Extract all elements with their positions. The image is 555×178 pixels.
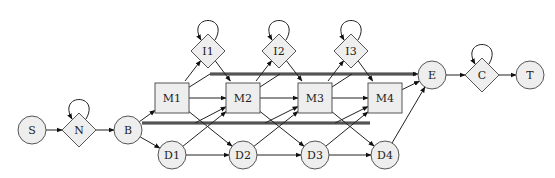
edge-M2-I2 <box>256 61 272 81</box>
edge-I2-M3 <box>286 61 302 81</box>
node-label: M2 <box>234 92 252 105</box>
edge-M3-D4 <box>332 112 374 146</box>
node-label: N <box>74 124 84 137</box>
node-M2: M2 <box>226 83 260 113</box>
node-label: M1 <box>163 92 181 105</box>
edge-D2-M3 <box>254 111 298 146</box>
node-label: M4 <box>376 92 394 105</box>
edge-I1-M2 <box>215 61 230 81</box>
node-N: N <box>62 100 96 148</box>
node-M1: M1 <box>155 83 189 113</box>
edge-M2-E <box>260 74 280 87</box>
node-S: S <box>18 116 46 144</box>
node-D2: D2 <box>229 141 257 169</box>
edge-M3-I3 <box>328 61 344 81</box>
node-M3: M3 <box>298 83 332 113</box>
node-B: B <box>114 116 142 144</box>
node-label: E <box>428 69 436 82</box>
edge-I3-M4 <box>358 61 373 81</box>
node-label: T <box>526 69 534 82</box>
node-I2: I2 <box>262 21 296 69</box>
node-T: T <box>516 61 544 89</box>
node-C: C <box>465 45 499 93</box>
nodes: SNBM1M2M3M4I1I2I3D1D2D3D4ECT <box>18 21 544 170</box>
edge-M1-E <box>189 74 210 87</box>
edge-M4-E <box>402 81 419 90</box>
node-label: D1 <box>164 149 180 162</box>
node-E: E <box>418 61 446 89</box>
node-D1: D1 <box>158 141 186 169</box>
edge-B-D1 <box>140 137 160 148</box>
edge-M2-D3 <box>260 111 304 146</box>
node-label: I3 <box>345 45 356 58</box>
edge-D1-M2 <box>183 112 226 147</box>
node-I3: I3 <box>334 21 368 69</box>
node-D4: D4 <box>371 141 399 169</box>
node-label: I1 <box>202 45 213 58</box>
edge-B-M4 <box>335 107 368 124</box>
node-label: C <box>478 69 486 82</box>
node-label: S <box>28 124 36 137</box>
edge-M1-D2 <box>189 112 232 147</box>
node-label: B <box>124 124 132 137</box>
edge-B-M1 <box>139 110 155 121</box>
node-M4: M4 <box>368 83 402 113</box>
node-D3: D3 <box>301 141 329 169</box>
node-label: D4 <box>377 149 393 162</box>
hmm-state-diagram: SNBM1M2M3M4I1I2I3D1D2D3D4ECT <box>0 0 555 178</box>
node-label: D2 <box>235 149 251 162</box>
node-label: D3 <box>307 149 323 162</box>
edge-M1-I1 <box>185 61 201 81</box>
node-label: I2 <box>273 45 284 58</box>
edge-M3-E <box>332 74 352 87</box>
node-label: M3 <box>306 92 324 105</box>
node-I1: I1 <box>191 21 225 69</box>
